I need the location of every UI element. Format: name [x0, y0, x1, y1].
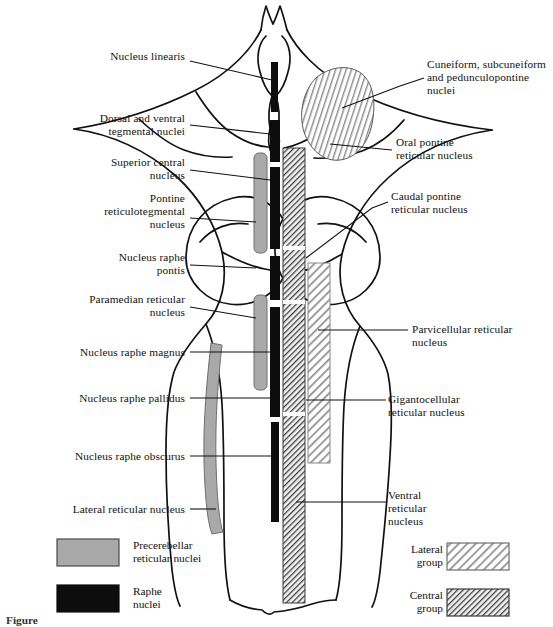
cuneiform-subcuneiform-ppn-patch — [302, 68, 374, 161]
nucleus-raphe-pontis-bar — [270, 256, 280, 300]
label-paramedian-reticular: Paramedian reticular nucleus — [2, 293, 185, 319]
lateral-reticular-bar — [204, 343, 223, 534]
label-nucleus-raphe-pallidus: Nucleus raphe pallidus — [48, 392, 185, 405]
paramedian-reticular-bar — [254, 295, 267, 390]
legend-label-lateral-group: Lateral group — [393, 543, 443, 570]
superior-central-bar — [270, 167, 280, 249]
nucleus-linearis-bar — [271, 62, 278, 112]
figure-caption: Figure — [6, 614, 306, 627]
central-group-column — [283, 148, 305, 603]
label-cuneiform-subcuneiform-ppn: Cuneiform, subcuneiform and pedunculopon… — [427, 58, 553, 98]
label-caudal-pontine-reticular: Caudal pontine reticular nucleus — [391, 190, 536, 216]
label-gigantocellular-reticular: Gigantocellular reticular nucleus — [388, 393, 534, 419]
legend-label-central-group: Central group — [393, 589, 443, 616]
label-superior-central-nucleus: Superior central nucleus — [70, 156, 185, 182]
label-lateral-reticular-nucleus: Lateral reticular nucleus — [31, 503, 185, 516]
legend-swatch-lateral-group — [447, 543, 509, 570]
legend-swatch-central-group — [447, 589, 509, 616]
label-dorsal-ventral-tegmental: Dorsal and ventral tegmental nuclei — [58, 112, 185, 138]
legend-swatch-raphe — [57, 585, 119, 612]
lateral-group-column — [308, 263, 330, 463]
label-nucleus-raphe-pontis: Nucleus raphe pontis — [71, 251, 185, 277]
label-nucleus-linearis: Nucleus linearis — [72, 50, 185, 63]
legend-swatch-precerebellar — [57, 539, 119, 566]
label-pontine-reticulotegmental: Pontine reticulotegmental nucleus — [27, 192, 185, 232]
nucleus-raphe-obscurus-bar — [271, 422, 279, 522]
leader-lines-left — [190, 61, 272, 509]
legend-label-precerebellar-reticular-nuclei: Precerebellar reticular nuclei — [133, 539, 273, 566]
label-nucleus-raphe-magnus: Nucleus raphe magnus — [45, 346, 185, 359]
label-parvicellular-reticular: Parvicellular reticular nucleus — [412, 323, 552, 349]
legend-label-raphe-nuclei: Raphe nuclei — [133, 585, 273, 612]
dorsal-ventral-tegmental-bar — [270, 120, 280, 162]
label-ventral-reticular: Ventral reticular nucleus — [388, 489, 498, 529]
label-nucleus-raphe-obscurus: Nucleus raphe obscurus — [41, 450, 185, 463]
label-oral-pontine-reticular: Oral pontine reticular nucleus — [396, 136, 536, 162]
pontine-reticulotegmental-bar — [254, 153, 267, 253]
nucleus-raphe-magnus-bar — [270, 307, 280, 417]
